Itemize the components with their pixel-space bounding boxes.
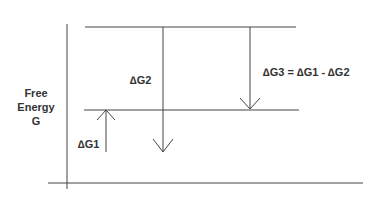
dg2-label: ∆G2 [130, 74, 151, 86]
dg1-label: ∆G1 [78, 138, 99, 150]
dg3-arrow [240, 27, 260, 109]
y-axis-title: Free Energy G [14, 86, 58, 128]
dg3-label: ∆G3 = ∆G1 - ∆G2 [263, 66, 350, 78]
dg2-arrow [153, 27, 173, 152]
dg1-arrow [97, 110, 115, 152]
